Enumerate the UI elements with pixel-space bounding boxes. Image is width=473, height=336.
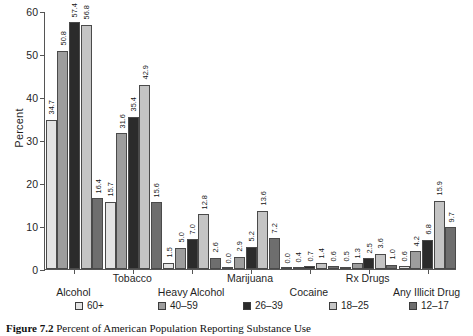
legend-swatch	[409, 302, 417, 310]
bar-value-label: 9.7	[448, 212, 455, 222]
bar-value-label: 1.3	[354, 248, 361, 258]
bar-value-label: 4.2	[413, 236, 420, 246]
bar: 5.0	[175, 248, 186, 270]
bar: 12.8	[198, 214, 209, 269]
bar-value-label: 6.8	[424, 224, 431, 234]
bar: 2.5	[363, 258, 374, 269]
bar: 31.6	[116, 133, 127, 269]
y-tick-mark	[40, 98, 45, 99]
bar-value-label: 15.7	[107, 182, 114, 196]
bar-value-label: 12.8	[201, 195, 208, 209]
bar: 3.6	[375, 254, 386, 269]
bar: 13.6	[257, 211, 268, 269]
bar: 7.0	[187, 239, 198, 269]
bar-value-label: 7.0	[189, 224, 196, 234]
bar-value-label: 3.6	[377, 238, 384, 248]
bar-value-label: 0.4	[295, 252, 302, 262]
figure-container: Percent 0102030405060 34.750.857.456.816…	[0, 0, 473, 336]
bar: 56.8	[81, 25, 92, 269]
bar-value-label: 1.0	[389, 249, 396, 259]
x-category-label: Heavy Alcohol	[158, 286, 225, 298]
bar: 1.5	[163, 263, 174, 269]
bar: 0.6	[328, 266, 339, 269]
legend-label: 12–17	[421, 300, 449, 311]
y-tick-mark	[40, 227, 45, 228]
x-category-label: Alcohol	[56, 286, 90, 298]
x-category-label: Any Illicit Drug	[393, 286, 460, 298]
caption-number: Figure 7.2	[6, 322, 53, 334]
x-tick-mark	[192, 269, 193, 274]
bar-value-label: 57.4	[71, 3, 78, 17]
bar: 2.9	[234, 257, 245, 269]
bar: 0.0	[281, 267, 292, 269]
bar: 16.4	[92, 198, 103, 269]
bar-value-label: 50.8	[60, 31, 67, 45]
bar-value-label: 2.6	[212, 243, 219, 253]
bar-value-label: 0.7	[307, 251, 314, 261]
y-tick-label: 0	[16, 264, 38, 276]
y-tick-mark	[40, 270, 45, 271]
bar: 1.4	[316, 263, 327, 269]
bar-value-label: 0.5	[342, 252, 349, 262]
legend-label: 40–59	[170, 300, 198, 311]
bar: 34.7	[46, 120, 57, 269]
bar-value-label: 2.5	[365, 243, 372, 253]
bar-value-label: 31.6	[118, 114, 125, 128]
bar: 0.6	[399, 266, 410, 269]
x-tick-mark	[310, 269, 311, 274]
bar: 1.0	[386, 265, 397, 269]
bar: 7.2	[269, 238, 280, 269]
bar-value-label: 13.6	[259, 191, 266, 205]
bar-value-label: 5.0	[177, 232, 184, 242]
legend-item: 26–39	[243, 300, 283, 311]
legend-item: 60+	[75, 300, 104, 311]
bar-value-label: 2.9	[236, 241, 243, 251]
legend-label: 60+	[87, 300, 104, 311]
bar: 5.2	[246, 247, 257, 269]
bar: 1.3	[352, 263, 363, 269]
chart-legend: 60+40–5926–3918–2512–17	[0, 300, 473, 316]
legend-item: 12–17	[409, 300, 449, 311]
bar: 50.8	[57, 51, 68, 269]
caption-text: Percent of American Population Reporting…	[56, 322, 311, 334]
legend-label: 18–25	[341, 300, 369, 311]
bar-value-label: 0.6	[401, 251, 408, 261]
y-tick-mark	[40, 141, 45, 142]
bar-value-label: 34.7	[48, 100, 55, 114]
y-tick-label: 40	[16, 92, 38, 104]
x-category-label: Cocaine	[290, 286, 329, 298]
bar-value-label: 56.8	[83, 5, 90, 19]
bar: 6.8	[422, 240, 433, 269]
bar-value-label: 42.9	[142, 65, 149, 79]
bar-value-label: 1.4	[318, 248, 325, 258]
bar-value-label: 1.5	[166, 247, 173, 257]
legend-item: 18–25	[329, 300, 369, 311]
bar: 57.4	[69, 22, 80, 269]
bar-value-label: 5.2	[248, 231, 255, 241]
bar: 35.4	[128, 117, 139, 269]
legend-item: 40–59	[158, 300, 198, 311]
y-tick-mark	[40, 55, 45, 56]
bar-value-label: 16.4	[94, 179, 101, 193]
figure-caption: Figure 7.2 Percent of American Populatio…	[6, 322, 471, 334]
legend-swatch	[75, 302, 83, 310]
bar-value-label: 15.9	[436, 181, 443, 195]
bar: 0.5	[340, 267, 351, 269]
y-tick-label: 30	[16, 135, 38, 147]
y-tick-mark	[40, 12, 45, 13]
x-category-label: Rx Drugs	[346, 272, 390, 284]
bar: 42.9	[139, 85, 150, 269]
bar: 15.9	[434, 201, 445, 269]
bar-value-label: 0.0	[225, 253, 232, 263]
y-tick-label: 50	[16, 49, 38, 61]
bar: 9.7	[445, 227, 456, 269]
bar: 15.7	[105, 202, 116, 270]
x-category-label: Marijuana	[227, 272, 273, 284]
y-tick-label: 20	[16, 178, 38, 190]
legend-swatch	[158, 302, 166, 310]
y-tick-label: 60	[16, 6, 38, 18]
legend-swatch	[329, 302, 337, 310]
legend-swatch	[243, 302, 251, 310]
bar-value-label: 7.2	[271, 223, 278, 233]
x-category-label: Tobacco	[113, 272, 152, 284]
